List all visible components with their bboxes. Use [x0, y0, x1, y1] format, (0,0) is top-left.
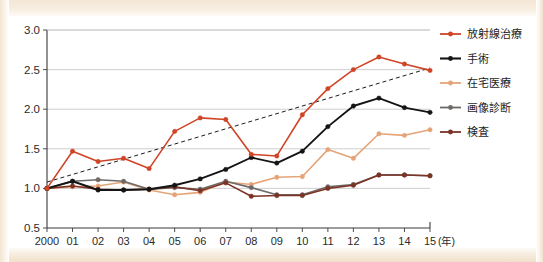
- x-axis-unit-label: (年): [438, 235, 455, 247]
- series-line: [47, 98, 430, 190]
- series-marker: [300, 193, 304, 197]
- series-marker: [224, 167, 228, 171]
- series-marker: [326, 86, 330, 90]
- x-tick-label: 02: [92, 235, 104, 247]
- series-marker: [96, 159, 100, 163]
- x-tick-label: 12: [347, 235, 359, 247]
- legend-item-0[interactable]: 放射線治療: [440, 27, 522, 40]
- x-tick-label: 2000: [35, 235, 59, 247]
- series-marker: [121, 156, 125, 160]
- line-chart: 0.51.01.52.02.53.0 200001020304050607080…: [0, 0, 543, 262]
- trend-line-dashed: [47, 68, 430, 182]
- series-marker: [121, 179, 125, 183]
- series-marker: [377, 132, 381, 136]
- series-marker: [224, 117, 228, 121]
- series-marker: [224, 181, 228, 185]
- series-marker: [198, 177, 202, 181]
- legend-swatch-marker: [448, 81, 453, 86]
- series-marker: [275, 154, 279, 158]
- series-marker: [402, 173, 406, 177]
- series-marker: [147, 166, 151, 170]
- series-marker: [275, 193, 279, 197]
- chart-legend: 放射線治療手術在宅医療画像診断検査: [440, 27, 522, 138]
- series-marker: [121, 188, 125, 192]
- series-marker: [70, 184, 74, 188]
- series-marker: [198, 189, 202, 193]
- y-tick-label: 2.5: [24, 64, 40, 76]
- legend-label: 画像診断: [467, 101, 511, 114]
- series-marker: [275, 161, 279, 165]
- x-tick-label: 15: [424, 235, 436, 247]
- y-tick-label: 1.5: [24, 143, 40, 155]
- series-marker: [96, 188, 100, 192]
- x-tick-label: 11: [322, 235, 333, 247]
- series-marker: [300, 113, 304, 117]
- x-tick-marks: [47, 228, 430, 232]
- series-marker: [428, 110, 432, 114]
- legend-item-3[interactable]: 画像診断: [440, 101, 511, 114]
- series-marker: [249, 152, 253, 156]
- series-0: [45, 55, 432, 191]
- series-marker: [428, 128, 432, 132]
- legend-label: 在宅医療: [467, 76, 511, 89]
- series-marker: [70, 149, 74, 153]
- series-marker: [172, 129, 176, 133]
- legend-swatch-marker: [448, 105, 453, 110]
- y-tick-labels: 0.51.01.52.02.53.0: [24, 24, 47, 234]
- series-marker: [377, 173, 381, 177]
- series-marker: [402, 133, 406, 137]
- series-marker: [198, 116, 202, 120]
- grid-lines: [47, 30, 430, 188]
- series-line: [47, 57, 430, 188]
- chart-figure: 0.51.01.52.02.53.0 200001020304050607080…: [0, 0, 543, 262]
- series-marker: [326, 124, 330, 128]
- y-tick-label: 1.0: [24, 182, 40, 194]
- x-tick-label: 13: [373, 235, 385, 247]
- series-marker: [172, 193, 176, 197]
- x-tick-labels: 2000010203040506070809101112131415: [35, 235, 436, 247]
- series-marker: [351, 183, 355, 187]
- series-marker: [326, 147, 330, 151]
- y-tick-label: 3.0: [24, 24, 40, 36]
- series-marker: [249, 185, 253, 189]
- series-marker: [96, 177, 100, 181]
- series-marker: [402, 105, 406, 109]
- x-tick-label: 01: [66, 235, 78, 247]
- x-axis-unit: (年): [438, 235, 455, 247]
- legend-label: 手術: [467, 52, 489, 65]
- series-marker: [428, 174, 432, 178]
- series-marker: [351, 67, 355, 71]
- data-series: [45, 55, 432, 199]
- legend-swatch-marker: [448, 56, 453, 61]
- legend-item-4[interactable]: 検査: [440, 125, 489, 138]
- series-marker: [45, 186, 49, 190]
- series-marker: [351, 156, 355, 160]
- series-marker: [147, 187, 151, 191]
- series-marker: [300, 149, 304, 153]
- series-marker: [172, 183, 176, 187]
- x-tick-label: 03: [117, 235, 129, 247]
- x-tick-label: 14: [398, 235, 410, 247]
- series-marker: [351, 104, 355, 108]
- series-marker: [326, 186, 330, 190]
- y-tick-label: 0.5: [24, 222, 40, 234]
- series-marker: [300, 174, 304, 178]
- x-tick-label: 07: [220, 235, 232, 247]
- trend-line: [47, 68, 430, 182]
- legend-swatch-marker: [448, 32, 453, 37]
- x-tick-label: 04: [143, 235, 155, 247]
- series-marker: [377, 96, 381, 100]
- legend-label: 検査: [467, 125, 489, 138]
- legend-item-2[interactable]: 在宅医療: [440, 76, 511, 89]
- series-marker: [377, 55, 381, 59]
- x-tick-label: 06: [194, 235, 206, 247]
- series-marker: [249, 194, 253, 198]
- x-tick-label: 05: [169, 235, 181, 247]
- x-tick-label: 09: [271, 235, 283, 247]
- series-marker: [428, 68, 432, 72]
- legend-item-1[interactable]: 手術: [440, 52, 489, 65]
- legend-label: 放射線治療: [467, 27, 522, 40]
- legend-swatch-marker: [448, 130, 453, 135]
- series-marker: [70, 179, 74, 183]
- x-tick-label: 08: [245, 235, 257, 247]
